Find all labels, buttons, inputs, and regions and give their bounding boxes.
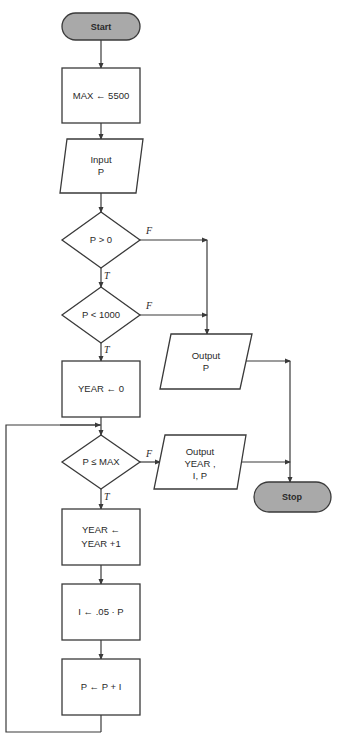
- decision-p-le-max: P ≤ MAX: [62, 435, 140, 489]
- edge-label-false-1: F: [145, 225, 153, 236]
- io-input-p: Input P: [60, 139, 143, 193]
- process-year-increment: YEAR ← YEAR +1: [62, 509, 140, 565]
- year-init-label: YEAR ← 0: [78, 383, 124, 394]
- process-p-update: P ← P + I: [62, 659, 140, 715]
- edge-label-true-1: T: [104, 270, 111, 281]
- stop-terminal: Stop: [254, 482, 331, 512]
- output-year-label-1: Output: [186, 446, 215, 457]
- process-max-assign: MAX ← 5500: [62, 68, 140, 123]
- process-interest: I ← .05 · P: [62, 584, 140, 640]
- dec-p-lt-1000-label: P < 1000: [82, 309, 120, 320]
- max-assign-label: MAX ← 5500: [73, 90, 130, 101]
- io-output-p: Output P: [160, 334, 252, 389]
- dec-p-gt-0-label: P > 0: [90, 234, 112, 245]
- year-inc-label-1: YEAR ←: [82, 524, 120, 535]
- start-terminal: Start: [62, 13, 140, 40]
- edge-label-false-2: F: [145, 300, 153, 311]
- io-output-year-i-p: Output YEAR , I, P: [154, 435, 246, 489]
- input-label-2: P: [98, 166, 104, 177]
- year-inc-label-2: YEAR +1: [81, 538, 120, 549]
- interest-label: I ← .05 · P: [78, 606, 123, 617]
- edge-label-true-2: T: [104, 344, 111, 355]
- process-year-init: YEAR ← 0: [62, 361, 140, 417]
- edge-label-false-3: F: [145, 448, 153, 459]
- edge-label-true-3: T: [104, 491, 111, 502]
- dec-p-le-max-label: P ≤ MAX: [82, 456, 120, 467]
- output-year-label-2: YEAR ,: [184, 458, 215, 469]
- stop-label: Stop: [282, 492, 302, 502]
- output-year-label-3: I, P: [193, 470, 207, 481]
- output-p-label-2: P: [203, 362, 209, 373]
- p-update-label: P ← P + I: [81, 681, 122, 692]
- output-p-label-1: Output: [192, 350, 221, 361]
- input-label-1: Input: [90, 154, 111, 165]
- flowchart: Start MAX ← 5500 Input P P > 0 F T P < 1…: [0, 0, 345, 737]
- decision-p-gt-0: P > 0: [62, 212, 140, 268]
- decision-p-lt-1000: P < 1000: [62, 287, 140, 343]
- start-label: Start: [91, 22, 112, 32]
